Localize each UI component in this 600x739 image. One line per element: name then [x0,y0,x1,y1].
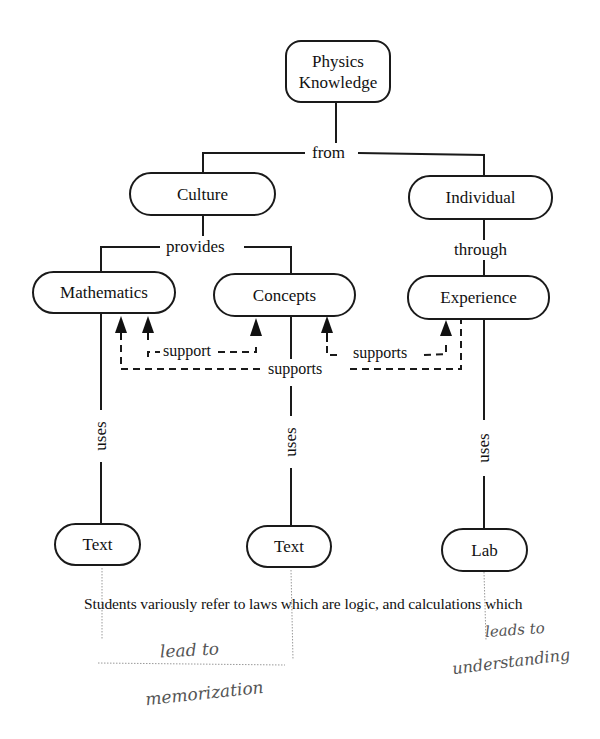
edge-label-uses-2: uses [282,426,300,458]
handwritten-lead-to: lead to [160,638,220,661]
edge-label-uses-3: uses [475,432,493,464]
node-text-1: Text [54,523,141,566]
node-text-2-label: Text [274,536,304,557]
caption-text: Students variously refer to laws which a… [84,595,522,613]
edge-label-provides: provides [163,237,228,257]
node-experience: Experience [407,275,550,320]
node-culture-label: Culture [177,184,228,205]
node-lab-label: Lab [471,540,497,561]
node-physics-knowledge-line1: Physics [312,51,364,72]
edge-label-support: support [160,341,214,361]
node-text-2: Text [246,525,332,568]
node-lab: Lab [441,528,528,572]
node-physics-knowledge-line2: Knowledge [299,72,377,93]
node-experience-label: Experience [440,287,516,308]
node-culture: Culture [129,172,276,216]
edge-label-uses-1: uses [92,420,110,452]
node-mathematics: Mathematics [32,271,176,314]
node-individual-label: Individual [446,187,516,208]
node-mathematics-label: Mathematics [60,282,148,303]
edge-label-through: through [451,240,510,260]
edge-label-supports-bottom: supports [265,359,325,379]
node-text-1-label: Text [83,534,113,555]
edge-label-from: from [309,143,348,163]
edge-label-supports-right: supports [350,343,410,363]
node-concepts-label: Concepts [253,285,316,306]
node-concepts: Concepts [213,273,356,317]
node-physics-knowledge: Physics Knowledge [285,40,391,103]
node-individual: Individual [408,175,553,220]
